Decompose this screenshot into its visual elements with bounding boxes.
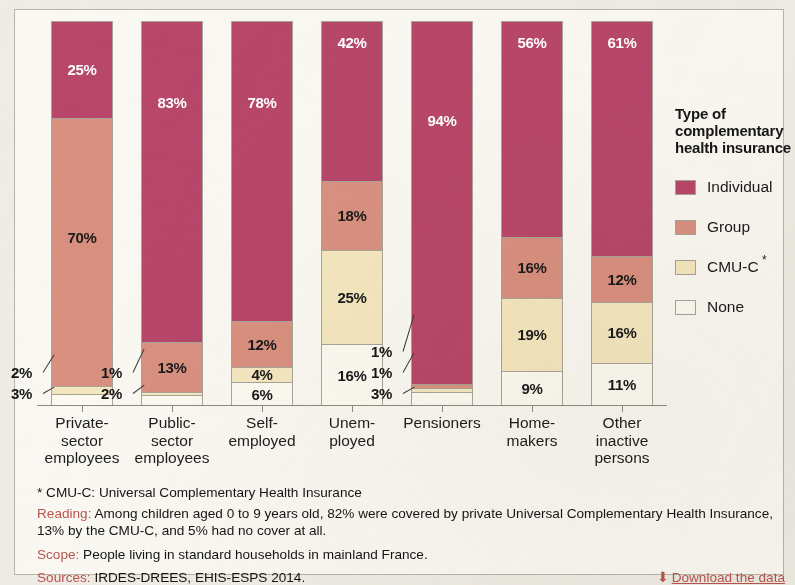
bar-value-label: 11% bbox=[608, 376, 636, 393]
legend-swatch-group bbox=[675, 220, 696, 235]
stacked-bar[interactable]: 61%12%16%11% bbox=[591, 21, 653, 406]
category-label-line: Public- bbox=[127, 414, 217, 432]
bar-group: 83%13%1%2% bbox=[141, 21, 203, 406]
download-data-link[interactable]: ⬇Download the data bbox=[657, 569, 785, 585]
bar-segment-individual[interactable]: 42% bbox=[322, 22, 382, 181]
bar-group: 56%16%19%9% bbox=[501, 21, 563, 406]
chart-frame: 25%70%2%3%3%2%83%13%1%2%2%1%78%12%4%6%42… bbox=[14, 9, 784, 575]
bar-value-label: 13% bbox=[157, 359, 186, 376]
legend-item-none[interactable]: None bbox=[675, 298, 795, 316]
stacked-bar[interactable]: 56%16%19%9% bbox=[501, 21, 563, 406]
bar-segment-group[interactable]: 70% bbox=[52, 118, 112, 386]
bar-segment-individual[interactable]: 25% bbox=[52, 22, 112, 118]
category-label: Home-makers bbox=[487, 414, 577, 449]
footnote-reading: Reading: Among children aged 0 to 9 year… bbox=[37, 505, 785, 540]
legend-label-individual: Individual bbox=[707, 178, 773, 196]
legend-swatch-cmuc bbox=[675, 260, 696, 275]
bar-value-label: 12% bbox=[247, 336, 276, 353]
bar-segment-individual[interactable]: 83% bbox=[142, 22, 202, 342]
bar-segment-individual[interactable]: 61% bbox=[592, 22, 652, 256]
bar-segment-individual[interactable]: 56% bbox=[502, 22, 562, 237]
stacked-bar[interactable]: 78%12%4%6% bbox=[231, 21, 293, 406]
bar-segment-individual[interactable]: 94% bbox=[412, 22, 472, 384]
category-label: Unem-ployed bbox=[307, 414, 397, 449]
bar-value-callout-group: 1% bbox=[371, 343, 392, 360]
category-labels: Private-sectoremployeesPublic-sectorempl… bbox=[37, 410, 667, 480]
category-label-line: Private- bbox=[37, 414, 127, 432]
bar-value-label: 12% bbox=[607, 271, 636, 288]
bar-group: 94%1%1%3% bbox=[411, 21, 473, 406]
bar-segment-group[interactable]: 18% bbox=[322, 181, 382, 249]
bar-segment-group[interactable]: 13% bbox=[142, 342, 202, 392]
bar-segment-cmuc[interactable]: 4% bbox=[232, 367, 292, 382]
bar-segment-group[interactable]: 12% bbox=[232, 321, 292, 367]
category-label: Private-sectoremployees bbox=[37, 414, 127, 467]
bar-value-callout-cmuc: 1% bbox=[371, 364, 392, 381]
reading-text: Among children aged 0 to 9 years old, 82… bbox=[37, 506, 773, 539]
category-label-line: Other bbox=[577, 414, 667, 432]
category-label-line: sector bbox=[127, 432, 217, 450]
bar-segment-none[interactable]: 6% bbox=[232, 382, 292, 405]
bar-value-label: 16% bbox=[517, 259, 546, 276]
chart-page: 25%70%2%3%3%2%83%13%1%2%2%1%78%12%4%6%42… bbox=[0, 0, 795, 585]
bar-value-label: 19% bbox=[517, 326, 546, 343]
bar-value-label: 18% bbox=[337, 207, 366, 224]
category-label-line: Unem- bbox=[307, 414, 397, 432]
legend-items: IndividualGroupCMU-C*None bbox=[675, 178, 795, 316]
legend-asterisk-cmuc: * bbox=[762, 253, 767, 267]
category-label-line: ployed bbox=[307, 432, 397, 450]
category-label-line: inactive bbox=[577, 432, 667, 450]
bar-segment-group[interactable]: 16% bbox=[502, 237, 562, 298]
category-label-line: employees bbox=[37, 449, 127, 467]
stacked-bar[interactable]: 25%70%2%3% bbox=[51, 21, 113, 406]
category-label-line: Pensioners bbox=[397, 414, 487, 432]
bar-segment-none[interactable]: 11% bbox=[592, 363, 652, 405]
legend-item-group[interactable]: Group bbox=[675, 218, 795, 236]
bar-value-label: 78% bbox=[247, 94, 276, 111]
sources-text: IRDES-DREES, EHIS-ESPS 2014. bbox=[91, 570, 306, 585]
reading-label: Reading: bbox=[37, 506, 91, 521]
category-label-line: persons bbox=[577, 449, 667, 467]
legend-item-cmuc[interactable]: CMU-C* bbox=[675, 258, 795, 276]
bar-value-callout-none: 3% bbox=[11, 385, 32, 402]
category-label: Pensioners bbox=[397, 414, 487, 432]
bar-segment-none[interactable]: 3% bbox=[412, 392, 472, 404]
category-label-line: sector bbox=[37, 432, 127, 450]
bar-value-label: 25% bbox=[337, 289, 366, 306]
bar-value-label: 16% bbox=[337, 367, 366, 384]
bar-segment-individual[interactable]: 78% bbox=[232, 22, 292, 321]
bar-segment-cmuc[interactable]: 25% bbox=[322, 250, 382, 345]
bar-value-label: 94% bbox=[427, 112, 456, 129]
legend: Type of complementary health insurance I… bbox=[675, 105, 795, 338]
bar-segment-group[interactable]: 12% bbox=[592, 256, 652, 302]
scope-label: Scope: bbox=[37, 547, 79, 562]
category-label: Public-sectoremployees bbox=[127, 414, 217, 467]
category-label-line: makers bbox=[487, 432, 577, 450]
bar-value-label: 56% bbox=[517, 34, 546, 51]
footer: * CMU-C: Universal Complementary Health … bbox=[37, 484, 785, 585]
bar-segment-cmuc[interactable]: 19% bbox=[502, 298, 562, 371]
stacked-bar[interactable]: 83%13%1%2% bbox=[141, 21, 203, 406]
category-label: Otherinactivepersons bbox=[577, 414, 667, 467]
legend-swatch-none bbox=[675, 300, 696, 315]
legend-label-none: None bbox=[707, 298, 744, 316]
legend-swatch-individual bbox=[675, 180, 696, 195]
download-icon: ⬇ bbox=[657, 569, 669, 585]
bar-value-label: 16% bbox=[607, 324, 636, 341]
stacked-bars: 25%70%2%3%3%2%83%13%1%2%2%1%78%12%4%6%42… bbox=[37, 21, 667, 406]
stacked-bar[interactable]: 94%1%1%3% bbox=[411, 21, 473, 406]
download-label: Download the data bbox=[672, 570, 785, 585]
bar-value-callout-none: 3% bbox=[371, 385, 392, 402]
bar-value-label: 25% bbox=[67, 61, 96, 78]
legend-item-individual[interactable]: Individual bbox=[675, 178, 795, 196]
legend-label-cmuc: CMU-C* bbox=[707, 258, 759, 276]
bar-segment-cmuc[interactable]: 16% bbox=[592, 302, 652, 363]
bar-segment-none[interactable]: 9% bbox=[502, 371, 562, 405]
category-label: Self-employed bbox=[217, 414, 307, 449]
sources-label: Sources: bbox=[37, 570, 91, 585]
category-label-line: Self- bbox=[217, 414, 307, 432]
footnote-scope: Scope: People living in standard househo… bbox=[37, 546, 785, 564]
bar-value-label: 9% bbox=[521, 380, 542, 397]
bar-value-label: 4% bbox=[251, 366, 272, 383]
bar-segment-none[interactable]: 2% bbox=[142, 395, 202, 403]
